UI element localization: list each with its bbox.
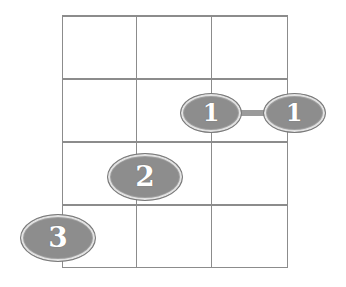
finger-number: 3 [48, 224, 67, 252]
finger-dot-1-string-4: 1 [263, 93, 326, 133]
fret-line-2 [62, 141, 289, 143]
finger-dot-3-string-1: 3 [20, 214, 96, 262]
chord-diagram: 1 1 2 3 [0, 0, 346, 287]
fret-line-3 [62, 204, 289, 206]
finger-dot-2-string-2: 2 [107, 153, 183, 201]
finger-number: 2 [135, 163, 154, 191]
fret-line-0 [62, 15, 289, 17]
finger-number: 1 [286, 101, 303, 125]
fret-line-4 [62, 267, 289, 269]
finger-number: 1 [203, 101, 220, 125]
finger-dot-1-string-3: 1 [180, 93, 242, 133]
fret-line-1 [62, 78, 289, 80]
